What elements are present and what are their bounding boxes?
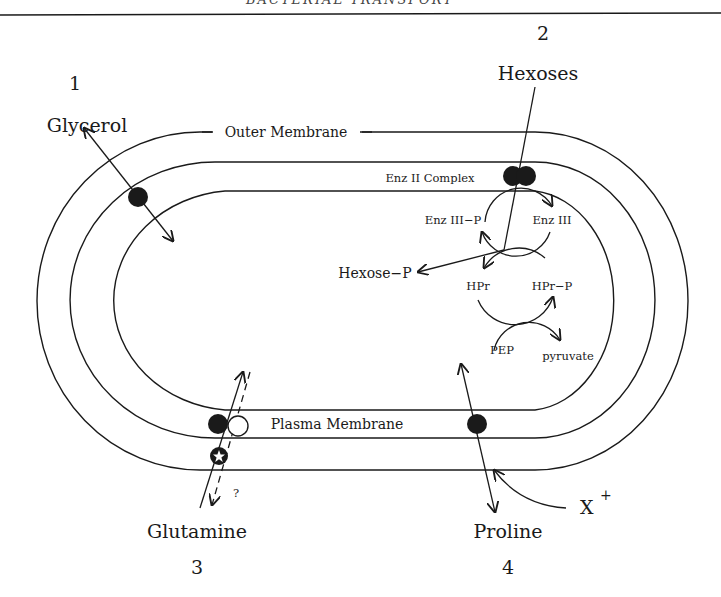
- pep-label: PEP: [490, 343, 514, 357]
- enz-iii-p-label: Enz III−P: [425, 213, 482, 227]
- proline-label: Proline: [474, 520, 543, 542]
- glycerol-arrow: [84, 128, 173, 241]
- enz-ii-complex-right: [516, 166, 536, 186]
- running-header: BACTERIAL TRANSPORT: [245, 0, 454, 7]
- glutamine-permease-dark: [208, 414, 228, 434]
- cation-charge: +: [600, 487, 612, 503]
- plasma-membrane-label: Plasma Membrane: [271, 416, 404, 432]
- question-mark: ?: [233, 486, 239, 500]
- bacterial-transport-diagram: BACTERIAL TRANSPORT Outer Membrane Enz I…: [0, 0, 721, 597]
- proline-carrier: [467, 414, 487, 434]
- system-2-number: 2: [537, 22, 549, 44]
- cation-label: X: [580, 496, 594, 518]
- hpr-cycle-bottom: [478, 297, 553, 325]
- header-rule: [0, 13, 721, 15]
- cation-arrow: [494, 470, 566, 508]
- hpr-p-label: HPr−P: [532, 279, 573, 293]
- hexose-p-label: Hexose−P: [338, 265, 411, 281]
- system-1-number: 1: [69, 72, 81, 94]
- hpr-cycle-top: [484, 248, 545, 268]
- hexose-p-arrow: [418, 250, 504, 272]
- hpr-label: HPr: [466, 279, 490, 293]
- pyruvate-label: pyruvate: [542, 349, 594, 363]
- glutamine-label: Glutamine: [147, 520, 247, 542]
- glycerol-facilitator: [128, 187, 148, 207]
- enz-ii-complex-label: Enz II Complex: [385, 171, 475, 185]
- hexoses-label: Hexoses: [498, 62, 579, 84]
- outer-membrane-label: Outer Membrane: [225, 124, 348, 140]
- system-3-number: 4: [502, 556, 514, 578]
- glutamine-permease-open: [228, 416, 248, 436]
- enz-iii-label: Enz III: [532, 213, 571, 227]
- system-4-number: 3: [191, 556, 203, 578]
